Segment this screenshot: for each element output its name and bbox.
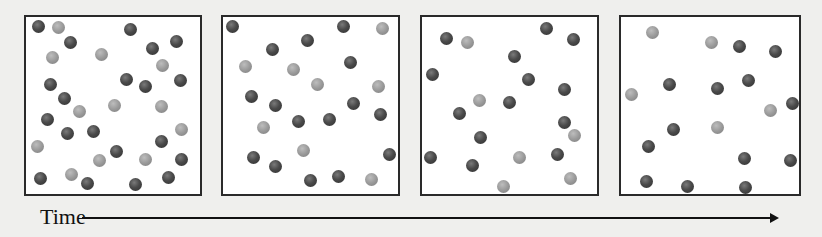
light-particle-icon [287,63,300,76]
dark-particle-icon [466,159,479,172]
dark-particle-icon [640,175,653,188]
dark-particle-icon [155,135,168,148]
light-particle-icon [257,121,270,134]
dark-particle-icon [733,40,746,53]
dark-particle-icon [175,153,188,166]
dark-particle-icon [129,178,142,191]
light-particle-icon [564,172,577,185]
light-particle-icon [46,51,59,64]
arrow-head-icon [770,213,779,223]
dark-particle-icon [503,96,516,109]
light-particle-icon [711,121,724,134]
dark-particle-icon [32,20,45,33]
light-particle-icon [239,60,252,73]
light-particle-icon [461,36,474,49]
dark-particle-icon [558,83,571,96]
dark-particle-icon [667,123,680,136]
time-arrow-line [82,217,772,219]
dark-particle-icon [642,140,655,153]
dark-particle-icon [81,177,94,190]
dark-particle-icon [426,68,439,81]
dark-particle-icon [170,35,183,48]
dark-particle-icon [174,74,187,87]
dark-particle-icon [124,23,137,36]
light-particle-icon [705,36,718,49]
dark-particle-icon [681,180,694,193]
dark-particle-icon [711,82,724,95]
dark-particle-icon [120,73,133,86]
light-particle-icon [93,154,106,167]
dark-particle-icon [162,171,175,184]
dark-particle-icon [424,151,437,164]
light-particle-icon [311,78,324,91]
dark-particle-icon [551,148,564,161]
dark-particle-icon [508,50,521,63]
dark-particle-icon [292,115,305,128]
dark-particle-icon [337,20,350,33]
dark-particle-icon [269,99,282,112]
light-particle-icon [297,144,310,157]
light-particle-icon [764,104,777,117]
dark-particle-icon [567,33,580,46]
dark-particle-icon [304,174,317,187]
dark-particle-icon [44,78,57,91]
dark-particle-icon [41,113,54,126]
dark-particle-icon [347,97,360,110]
light-particle-icon [625,88,638,101]
dark-particle-icon [146,42,159,55]
light-particle-icon [52,21,65,34]
light-particle-icon [497,180,510,193]
light-particle-icon [376,22,389,35]
light-particle-icon [31,140,44,153]
light-particle-icon [513,151,526,164]
dark-particle-icon [139,80,152,93]
dark-particle-icon [453,107,466,120]
dark-particle-icon [34,172,47,185]
dark-particle-icon [540,22,553,35]
dark-particle-icon [522,73,535,86]
dark-particle-icon [247,151,260,164]
dark-particle-icon [374,108,387,121]
dark-particle-icon [58,92,71,105]
dark-particle-icon [61,127,74,140]
dark-particle-icon [266,43,279,56]
dark-particle-icon [332,170,345,183]
light-particle-icon [175,123,188,136]
dark-particle-icon [269,160,282,173]
dark-particle-icon [301,34,314,47]
dark-particle-icon [784,154,797,167]
light-particle-icon [139,153,152,166]
dark-particle-icon [738,152,751,165]
dark-particle-icon [786,97,799,110]
light-particle-icon [73,105,86,118]
dark-particle-icon [226,20,239,33]
dark-particle-icon [64,36,77,49]
light-particle-icon [372,80,385,93]
dark-particle-icon [440,32,453,45]
light-particle-icon [65,168,78,181]
light-particle-icon [365,173,378,186]
dark-particle-icon [769,45,782,58]
light-particle-icon [473,94,486,107]
dark-particle-icon [344,56,357,69]
dark-particle-icon [87,125,100,138]
light-particle-icon [156,59,169,72]
dark-particle-icon [558,116,571,129]
dark-particle-icon [245,90,258,103]
dark-particle-icon [110,145,123,158]
dark-particle-icon [739,181,752,194]
dark-particle-icon [474,131,487,144]
time-axis-label: Time [40,204,86,230]
dark-particle-icon [663,78,676,91]
dark-particle-icon [383,148,396,161]
light-particle-icon [95,48,108,61]
dark-particle-icon [323,113,336,126]
light-particle-icon [568,129,581,142]
light-particle-icon [155,100,168,113]
light-particle-icon [108,99,121,112]
dark-particle-icon [742,74,755,87]
light-particle-icon [646,26,659,39]
